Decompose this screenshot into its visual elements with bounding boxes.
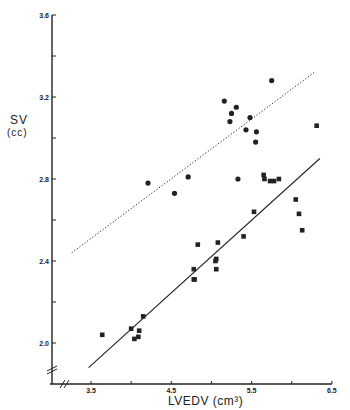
square-marker <box>300 228 305 233</box>
squares-regression-line <box>89 159 320 368</box>
square-marker <box>261 173 266 178</box>
square-marker <box>191 267 196 272</box>
axes: 2.02.42.83.23.63.54.55.56.5 <box>39 12 337 395</box>
y-tick-label: 2.8 <box>39 176 49 183</box>
square-marker <box>314 123 319 128</box>
square-marker <box>192 277 197 282</box>
x-tick-label: 3.5 <box>86 387 96 394</box>
circle-marker <box>254 129 259 134</box>
data-points <box>100 78 319 341</box>
square-marker <box>272 179 277 184</box>
square-marker <box>252 210 257 215</box>
x-tick-label: 4.5 <box>166 387 176 394</box>
y-tick-label: 3.6 <box>39 12 49 19</box>
circle-marker <box>269 78 274 83</box>
circle-marker <box>222 99 227 104</box>
square-marker <box>129 326 134 331</box>
square-marker <box>216 240 221 245</box>
square-marker <box>137 328 142 333</box>
circles-regression-line <box>72 72 315 252</box>
square-marker <box>293 197 298 202</box>
circle-marker <box>186 174 191 179</box>
square-marker <box>241 234 246 239</box>
square-marker <box>136 335 141 340</box>
regression-lines <box>72 72 320 367</box>
y-axis-unit: (cc) <box>7 127 28 138</box>
square-marker <box>277 177 282 182</box>
y-tick-label: 2.0 <box>39 340 49 347</box>
square-marker <box>195 242 200 247</box>
x-tick-label: 6.5 <box>327 387 337 394</box>
square-marker <box>100 333 105 338</box>
circle-marker <box>243 127 248 132</box>
circle-marker <box>172 191 177 196</box>
square-marker <box>268 179 273 184</box>
square-marker <box>262 177 267 182</box>
y-tick-label: 3.2 <box>39 94 49 101</box>
circle-marker <box>235 176 240 181</box>
square-marker <box>132 337 137 342</box>
y-axis-title: SV <box>10 113 28 127</box>
square-marker <box>214 267 219 272</box>
square-marker <box>214 257 219 262</box>
square-marker <box>141 314 146 319</box>
circle-marker <box>253 140 258 145</box>
x-tick-label: 5.5 <box>247 387 257 394</box>
circle-marker <box>145 181 150 186</box>
y-tick-label: 2.4 <box>39 258 49 265</box>
circle-marker <box>229 111 234 116</box>
circle-marker <box>227 119 232 124</box>
circle-marker <box>234 105 239 110</box>
x-axis-title: LVEDV (cm³) <box>168 394 243 408</box>
scatter-chart: 2.02.42.83.23.63.54.55.56.5 <box>0 0 350 410</box>
square-marker <box>297 212 302 217</box>
circle-marker <box>247 115 252 120</box>
